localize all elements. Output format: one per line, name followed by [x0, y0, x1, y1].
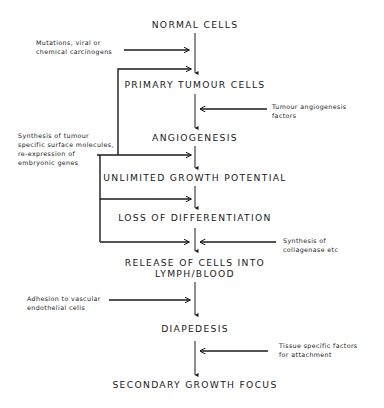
node-normal-cells: NORMAL CELLS — [145, 19, 245, 30]
node-loss-of-differentiation: LOSS OF DIFFERENTIATION — [110, 212, 280, 223]
note-tissue-specific-factors: Tissue specific factors for attachment — [279, 341, 358, 359]
node-diapedesis: DIAPEDESIS — [145, 323, 245, 334]
note-synthesis-surface-molecules: Synthesis of tumour specific surface mol… — [18, 131, 114, 167]
node-angiogenesis: ANGIOGENESIS — [145, 132, 245, 143]
note-tumour-angiogenesis-factors: Tumour angiogenesis factors — [272, 102, 347, 120]
note-mutations: Mutations, viral or chemical carcinogens — [36, 38, 112, 56]
node-release-line1: RELEASE OF CELLS INTO — [115, 257, 275, 268]
note-adhesion: Adhesion to vascular endothelial cells — [27, 294, 101, 312]
metastasis-flowchart: NORMAL CELLS PRIMARY TUMOUR CELLS ANGIOG… — [0, 0, 384, 408]
note-collagenase: Synthesis of collagenase etc — [283, 236, 338, 254]
node-unlimited-growth-potential: UNLIMITED GROWTH POTENTIAL — [100, 172, 290, 183]
node-release-line2: LYMPH/BLOOD — [115, 268, 275, 279]
node-release-of-cells: RELEASE OF CELLS INTO LYMPH/BLOOD — [115, 257, 275, 279]
node-primary-tumour-cells: PRIMARY TUMOUR CELLS — [120, 79, 270, 90]
node-secondary-growth-focus: SECONDARY GROWTH FOCUS — [105, 379, 285, 390]
